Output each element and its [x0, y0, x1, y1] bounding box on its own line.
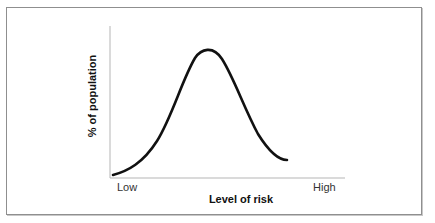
x-tick-high: High	[313, 181, 336, 193]
x-tick-low: Low	[117, 181, 137, 193]
bell-curve	[113, 50, 287, 175]
x-axis-label: Level of risk	[195, 193, 287, 205]
y-axis-label: % of population	[86, 55, 98, 137]
risk-distribution-plot	[0, 0, 435, 223]
